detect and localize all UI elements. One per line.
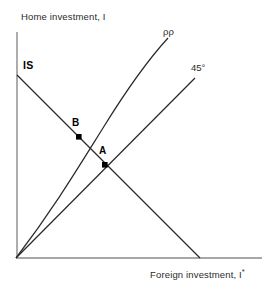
x-axis-label-text: Foreign investment, I: [150, 269, 242, 280]
pp-curve-label: ρρ: [163, 27, 174, 37]
x-axis-label: Foreign investment, I*: [150, 268, 245, 280]
diagram-canvas: [0, 0, 275, 287]
is-curve: [17, 75, 200, 258]
point-label-b: B: [72, 118, 79, 128]
y-axis-label: Home investment, I: [21, 12, 106, 22]
is-curve-label: IS: [23, 60, 34, 71]
pp-curve: [16, 38, 168, 258]
point-marker-a: [102, 162, 108, 168]
forty-five-degree-line: [16, 78, 195, 258]
forty-five-degree-label: 45°: [191, 63, 205, 73]
point-marker-b: [76, 134, 82, 140]
curves-group: [16, 38, 200, 258]
investment-diagram: Home investment, I Foreign investment, I…: [0, 0, 275, 287]
axes-group: [16, 32, 262, 258]
point-label-a: A: [99, 146, 106, 156]
x-axis-label-superscript: *: [242, 267, 245, 276]
